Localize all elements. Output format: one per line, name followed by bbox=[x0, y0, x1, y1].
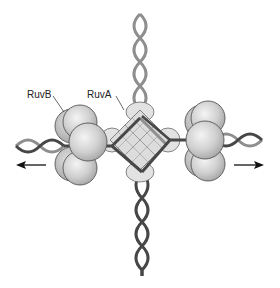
ruva-label: RuvA bbox=[87, 90, 111, 100]
ruvb-right-ring bbox=[185, 101, 225, 181]
ruv-diagram: RuvB RuvA bbox=[0, 0, 280, 288]
diagram-canvas bbox=[0, 0, 280, 288]
left-arrow bbox=[16, 161, 46, 169]
ruvb-label: RuvB bbox=[27, 90, 51, 100]
ruva-leader-line bbox=[116, 96, 124, 110]
dna-bottom-arm bbox=[136, 172, 148, 276]
ruvb-leader-line bbox=[53, 96, 64, 112]
right-arrow bbox=[234, 161, 264, 169]
